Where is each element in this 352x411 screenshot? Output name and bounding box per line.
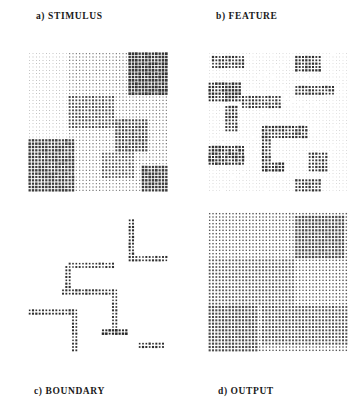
panel-stimulus	[28, 52, 168, 193]
figure-texture-segmentation: a) STIMULUS b) FEATURE c) BOUNDARY d) OU…	[0, 0, 352, 411]
panel-label-stimulus: a) STIMULUS	[36, 11, 103, 21]
panel-label-feature: b) FEATURE	[216, 11, 278, 21]
panel-stimulus-canvas	[28, 52, 168, 193]
panel-feature-canvas	[208, 52, 348, 193]
panel-output-canvas	[208, 212, 348, 353]
panel-boundary	[28, 212, 168, 353]
panel-output	[208, 212, 348, 353]
panel-boundary-canvas	[28, 212, 168, 353]
panel-feature	[208, 52, 348, 193]
panel-label-boundary-text: c) BOUNDARY	[34, 386, 105, 396]
panel-label-output-text: d) OUTPUT	[218, 386, 274, 396]
panel-label-output: d) OUTPUT	[218, 386, 274, 396]
panel-label-boundary: c) BOUNDARY	[34, 386, 105, 396]
panel-label-stimulus-text: a) STIMULUS	[36, 11, 103, 21]
panel-label-feature-text: b) FEATURE	[216, 11, 278, 21]
